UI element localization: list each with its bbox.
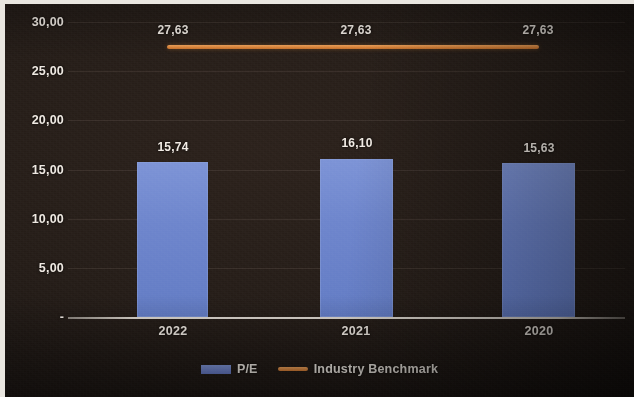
y-axis-tick-label: 20,00: [10, 113, 64, 127]
benchmark-line[interactable]: [167, 45, 539, 49]
x-axis-category-2020: 2020: [524, 324, 553, 338]
legend-item-industry-benchmark[interactable]: Industry Benchmark: [278, 362, 438, 376]
legend-item-pe[interactable]: P/E: [201, 362, 258, 376]
y-axis-tick-label: 25,00: [10, 64, 64, 78]
chart-legend: P/E Industry Benchmark: [5, 362, 634, 376]
y-axis-tick-label: 15,00: [10, 163, 64, 177]
x-axis-baseline: [68, 317, 625, 319]
bar-swatch-icon: [201, 365, 231, 374]
chart-canvas: 30,00 25,00 20,00 15,00 10,00 5,00 -: [5, 4, 634, 397]
benchmark-value-label-2021: 27,63: [340, 23, 371, 37]
gridline: [68, 120, 625, 121]
bar-value-label-2021: 16,10: [341, 136, 372, 150]
bar-pe-2020[interactable]: [502, 163, 575, 317]
line-swatch-icon: [278, 367, 308, 371]
x-axis-category-2021: 2021: [341, 324, 370, 338]
legend-label-industry-benchmark: Industry Benchmark: [314, 362, 438, 376]
y-axis-tick-label: 5,00: [10, 261, 64, 275]
x-axis-category-2022: 2022: [158, 324, 187, 338]
bar-value-label-2022: 15,74: [157, 140, 188, 154]
plot-area: [68, 22, 625, 317]
gridline: [68, 71, 625, 72]
legend-label-pe: P/E: [237, 362, 258, 376]
bar-pe-2021[interactable]: [320, 159, 393, 317]
y-axis-tick-label: 10,00: [10, 212, 64, 226]
photographed-chart-page: 30,00 25,00 20,00 15,00 10,00 5,00 -: [0, 0, 634, 397]
y-axis-tick-label: 30,00: [10, 15, 64, 29]
bar-value-label-2020: 15,63: [523, 141, 554, 155]
y-axis: 30,00 25,00 20,00 15,00 10,00 5,00 -: [8, 22, 64, 317]
y-axis-zero-dash-label: -: [10, 310, 64, 324]
benchmark-value-label-2022: 27,63: [157, 23, 188, 37]
benchmark-value-label-2020: 27,63: [522, 23, 553, 37]
bar-pe-2022[interactable]: [137, 162, 208, 317]
